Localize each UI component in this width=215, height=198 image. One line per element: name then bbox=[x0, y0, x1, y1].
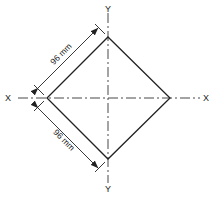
y-axis-label-top: Y bbox=[105, 4, 111, 14]
y-axis-label-bottom: Y bbox=[105, 184, 111, 194]
x-axis-label-left: X bbox=[5, 93, 11, 103]
upper-dimension-line bbox=[38, 28, 98, 88]
diagram-svg: 96 mm 96 mm X X Y Y bbox=[0, 0, 215, 198]
upper-dimension-label: 96 mm bbox=[48, 41, 73, 66]
x-axis-label-right: X bbox=[203, 93, 209, 103]
diagram-canvas: 96 mm 96 mm X X Y Y bbox=[0, 0, 215, 198]
lower-dimension-label: 96 mm bbox=[51, 127, 76, 152]
